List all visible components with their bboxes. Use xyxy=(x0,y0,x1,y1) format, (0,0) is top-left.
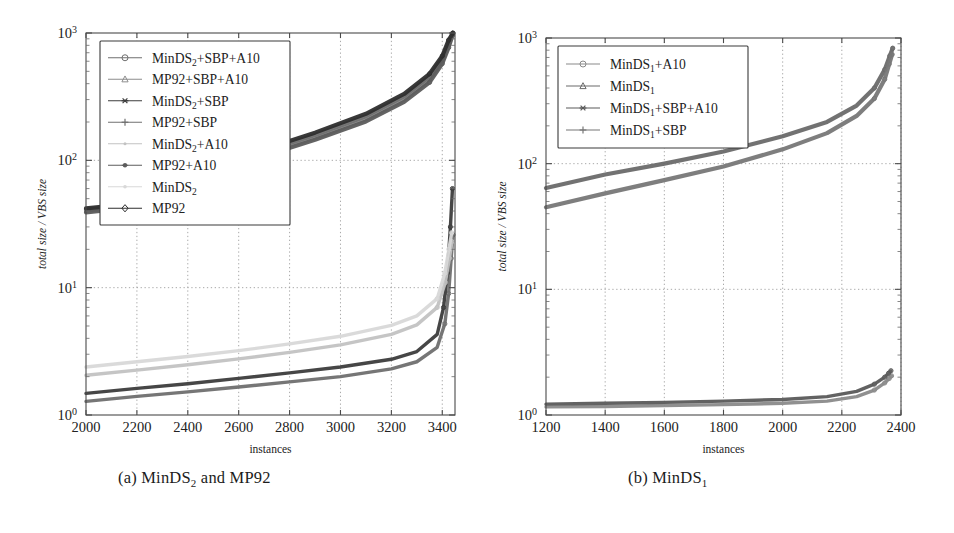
legend: MinDS2+SBP+A10MP92+SBP+A10MinDS2+SBPMP92… xyxy=(100,41,290,225)
caption-row: (a) MinDS2 and MP92 (b) MinDS1 xyxy=(0,468,954,533)
legend-label: MP92 xyxy=(152,201,185,216)
x-tick-label: 2200 xyxy=(827,419,856,435)
legend-label: MinDS1 xyxy=(610,79,655,96)
x-tick-label: 2800 xyxy=(275,419,304,435)
curve-minds2-a10 xyxy=(86,240,454,376)
x-tick-label: 2000 xyxy=(72,419,101,435)
y-tick-label: 102 xyxy=(58,151,78,168)
caption-panel-b: (b) MinDS1 xyxy=(628,468,707,489)
x-tick-label: 3200 xyxy=(377,419,406,435)
legend-label: MP92+A10 xyxy=(152,158,217,173)
x-tick-label: 1800 xyxy=(709,419,738,435)
legend-label: MinDS2+SBP+A10 xyxy=(152,51,260,68)
y-axis-title-group: total size / VBS size xyxy=(36,179,48,269)
curve-minds2 xyxy=(86,231,454,367)
x-tick-label: 1600 xyxy=(650,419,679,435)
x-tick-label: 2200 xyxy=(122,419,151,435)
panel-a: 20002200240026002800300032003400instance… xyxy=(0,0,480,470)
legend-label: MinDS1+A10 xyxy=(610,57,686,74)
y-tick-label: 103 xyxy=(518,29,538,46)
x-axis-title: instances xyxy=(249,443,292,455)
legend-label: MinDS1+SBP+A10 xyxy=(610,101,718,118)
legend: MinDS1+A10MinDS1MinDS1+SBP+A10MinDS1+SBP xyxy=(558,46,748,148)
x-tick-label: 2000 xyxy=(768,419,797,435)
y-tick-label: 101 xyxy=(58,279,78,296)
x-tick-label: 1400 xyxy=(591,419,620,435)
x-axis-title: instances xyxy=(702,443,745,455)
y-axis-title: total size / VBS size xyxy=(36,179,48,269)
legend-box xyxy=(100,41,290,225)
legend-label: MinDS2+SBP xyxy=(152,94,229,111)
x-tick-label: 3000 xyxy=(326,419,355,435)
y-axis-title: total size / VBS size xyxy=(496,181,508,271)
figure-container: 20002200240026002800300032003400instance… xyxy=(0,0,954,533)
x-tick-label: 1200 xyxy=(532,419,561,435)
legend-label: MinDS1+SBP xyxy=(610,123,687,140)
plot-b: 1200140016001800200022002400instances100… xyxy=(474,0,954,470)
y-tick-label: 101 xyxy=(518,280,538,297)
x-tick-label: 3400 xyxy=(428,419,457,435)
x-tick-label: 2400 xyxy=(887,419,916,435)
plot-a: 20002200240026002800300032003400instance… xyxy=(0,0,480,470)
caption-panel-a: (a) MinDS2 and MP92 xyxy=(118,468,271,489)
legend-label: MinDS2 xyxy=(152,180,197,197)
legend-label: MP92+SBP xyxy=(152,115,218,130)
panel-b: 1200140016001800200022002400instances100… xyxy=(474,0,954,470)
x-tick-label: 2600 xyxy=(224,419,253,435)
legend-label: MinDS2+A10 xyxy=(152,137,228,154)
x-tick-label: 2400 xyxy=(173,419,202,435)
y-tick-label: 103 xyxy=(58,24,78,41)
legend-label: MP92+SBP+A10 xyxy=(152,72,248,87)
y-axis-title-group: total size / VBS size xyxy=(496,181,508,271)
y-tick-label: 102 xyxy=(518,155,538,172)
